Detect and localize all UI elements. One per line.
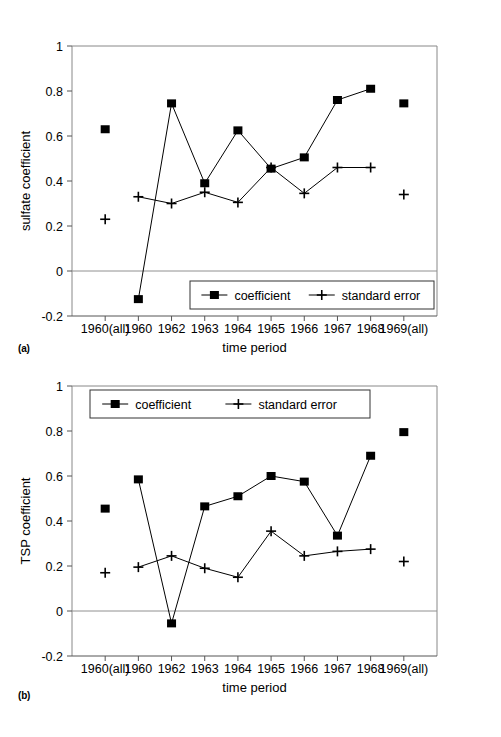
data-point-coefficient-1965 <box>267 472 276 480</box>
y-axis-title: TSP coefficient <box>18 477 33 564</box>
plot-frame <box>72 46 437 316</box>
data-point-coefficient-1960 <box>134 475 143 483</box>
data-point-standard-error-1968 <box>366 544 376 554</box>
data-point-coefficient-1966 <box>300 153 309 161</box>
legend-label-coefficient: coefficient <box>135 398 192 412</box>
data-point-standard-error-1964 <box>233 572 243 582</box>
data-point-standard-error-1967 <box>332 163 342 173</box>
data-point-standard-error-1966 <box>299 551 309 561</box>
data-point-coefficient-1963 <box>200 502 209 510</box>
legend-square-marker-icon <box>111 400 120 408</box>
data-point-standard-error-1962 <box>167 551 177 561</box>
y-tick-label: 0.4 <box>46 175 63 189</box>
x-tick-label: 1966 <box>290 322 318 336</box>
y-tick-label: 0 <box>56 605 63 619</box>
x-axis-title: time period <box>222 340 286 355</box>
plot-frame <box>72 386 437 656</box>
data-point-coefficient-1967 <box>333 532 342 540</box>
data-point-coefficient-1960 <box>134 295 143 303</box>
y-tick-label: 0.2 <box>46 560 63 574</box>
panel-a-tag: (a) <box>18 343 30 354</box>
x-tick-label: 1964 <box>224 322 252 336</box>
data-point-coefficient-1960(all) <box>101 125 110 133</box>
x-tick-label: 1960(all) <box>81 662 130 676</box>
data-point-standard-error-1965 <box>266 526 276 536</box>
x-tick-label: 1969(all) <box>379 662 428 676</box>
y-tick-label: 0.6 <box>46 470 63 484</box>
x-tick-label: 1963 <box>191 662 219 676</box>
x-tick-label: 1964 <box>224 662 252 676</box>
data-point-coefficient-1960(all) <box>101 505 110 513</box>
data-point-coefficient-1966 <box>300 478 309 486</box>
x-tick-label: 1967 <box>324 662 352 676</box>
legend-label-standard-error: standard error <box>342 289 421 303</box>
y-tick-label: 1 <box>56 40 63 54</box>
x-tick-label: 1967 <box>324 322 352 336</box>
data-point-coefficient-1962 <box>167 619 176 627</box>
y-tick-label: 0.2 <box>46 220 63 234</box>
y-tick-label: 1 <box>56 380 63 394</box>
data-point-standard-error-1963 <box>200 187 210 197</box>
data-point-standard-error-1960 <box>133 192 143 202</box>
x-tick-label: 1969(all) <box>379 322 428 336</box>
data-point-standard-error-1967 <box>332 546 342 556</box>
x-tick-label: 1962 <box>158 322 186 336</box>
x-tick-label: 1965 <box>257 322 285 336</box>
y-tick-label: 0.4 <box>46 515 63 529</box>
data-point-coefficient-1969(all) <box>399 428 408 436</box>
y-axis-title: sulfate coefficient <box>18 131 33 232</box>
y-tick-label: 0.8 <box>46 85 63 99</box>
panel-a: 10.80.60.40.20-0.21960(all)1960196219631… <box>0 0 501 370</box>
y-tick-label: 0.6 <box>46 130 63 144</box>
panel-b-tag: (b) <box>18 690 30 701</box>
data-point-coefficient-1967 <box>333 96 342 104</box>
data-point-standard-error-1969(all) <box>399 557 409 567</box>
x-tick-label: 1965 <box>257 662 285 676</box>
series-line-standard-error <box>138 168 370 204</box>
data-point-standard-error-1968 <box>366 163 376 173</box>
data-point-standard-error-1960(all) <box>100 214 110 224</box>
legend-label-standard-error: standard error <box>258 398 337 412</box>
x-tick-label: 1966 <box>290 662 318 676</box>
data-point-standard-error-1963 <box>200 563 210 573</box>
legend-label-coefficient: coefficient <box>234 289 291 303</box>
data-point-coefficient-1968 <box>366 85 375 93</box>
chart-a-svg: 10.80.60.40.20-0.21960(all)1960196219631… <box>0 0 501 370</box>
data-point-standard-error-1966 <box>299 188 309 198</box>
legend-square-marker-icon <box>210 291 219 299</box>
data-point-coefficient-1964 <box>233 492 242 500</box>
x-tick-label: 1960 <box>124 662 152 676</box>
data-point-standard-error-1960 <box>133 562 143 572</box>
x-tick-label: 1960 <box>124 322 152 336</box>
x-tick-label: 1962 <box>158 662 186 676</box>
y-tick-label: -0.2 <box>41 310 63 324</box>
data-point-coefficient-1968 <box>366 452 375 460</box>
x-tick-label: 1960(all) <box>81 322 130 336</box>
data-point-coefficient-1962 <box>167 99 176 107</box>
panel-b: 10.80.60.40.20-0.21960(all)1960196219631… <box>0 370 501 737</box>
data-point-coefficient-1963 <box>200 179 209 187</box>
data-point-standard-error-1969(all) <box>399 190 409 200</box>
y-tick-label: -0.2 <box>41 650 63 664</box>
chart-b-svg: 10.80.60.40.20-0.21960(all)1960196219631… <box>0 370 501 737</box>
data-point-coefficient-1969(all) <box>399 99 408 107</box>
y-tick-label: 0.8 <box>46 425 63 439</box>
data-point-coefficient-1964 <box>233 126 242 134</box>
series-line-coefficient <box>138 89 370 299</box>
x-axis-title: time period <box>222 680 286 695</box>
data-point-standard-error-1962 <box>167 199 177 209</box>
data-point-standard-error-1960(all) <box>100 568 110 578</box>
y-tick-label: 0 <box>56 265 63 279</box>
x-tick-label: 1963 <box>191 322 219 336</box>
